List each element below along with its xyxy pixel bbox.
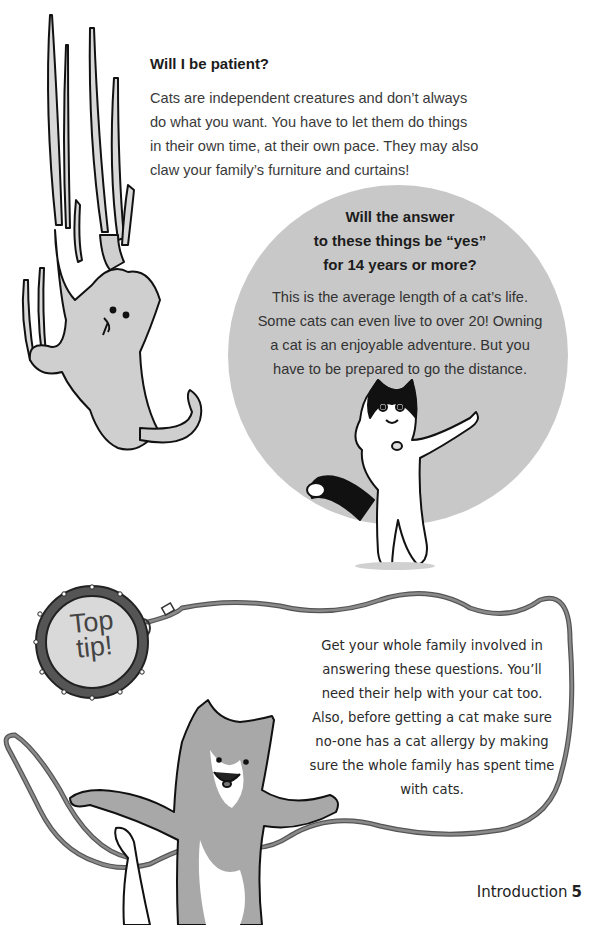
callout-heading: Will the answer to these things be “yes”… <box>280 205 520 277</box>
section-heading: Will I be patient? <box>150 55 530 72</box>
callout-body: This is the average length of a cat’s li… <box>230 285 570 381</box>
callout-body-line: This is the average length of a cat’s li… <box>230 285 570 309</box>
callout-body-line: Some cats can even live to over 20! Owni… <box>230 309 570 333</box>
footer-section-label: Introduction <box>477 883 568 901</box>
tip-body-line: no-one has a cat allergy by making <box>282 730 582 754</box>
callout-body-line: have to be prepared to go the distance. <box>230 357 570 381</box>
tip-body-line: answering these questions. You’ll <box>282 658 582 682</box>
tip-body-line: Also, before getting a cat make sure <box>282 706 582 730</box>
tip-body-line: with cats. <box>282 778 582 802</box>
page-number: 5 <box>572 883 582 901</box>
page-footer: Introduction5 <box>477 883 582 901</box>
callout-body-line: a cat is an enjoyable adventure. But you <box>230 333 570 357</box>
section-body-line: claw your family’s furniture and curtain… <box>150 158 530 182</box>
section-body-line: in their own time, at their own pace. Th… <box>150 134 530 158</box>
climbing-cat-illustration <box>23 15 201 450</box>
callout-heading-line: to these things be “yes” <box>280 229 520 253</box>
tip-body: Get your whole family involved in answer… <box>282 634 582 802</box>
top-tip-label: Top tip! <box>56 606 131 663</box>
section-body: Cats are independent creatures and don’t… <box>150 86 530 182</box>
tip-body-line: sure the whole family has spent time <box>282 754 582 778</box>
callout-heading-line: for 14 years or more? <box>280 253 520 277</box>
section-body-line: Cats are independent creatures and don’t… <box>150 86 530 110</box>
callout-heading-line: Will the answer <box>280 205 520 229</box>
tip-body-line: Get your whole family involved in <box>282 634 582 658</box>
tip-body-line: need their help with your cat too. <box>282 682 582 706</box>
section-body-line: do what you want. You have to let them d… <box>150 110 530 134</box>
